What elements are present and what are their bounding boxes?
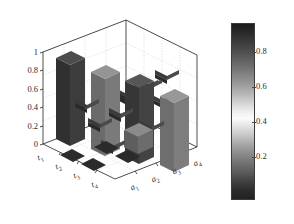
ztick-label-1: 1 — [16, 48, 38, 57]
ztick-label-0.4: 0.4 — [10, 103, 38, 112]
colorbar-tick-label-0.2: 0.2 — [256, 152, 267, 161]
ztick-label-0.2: 0.2 — [10, 122, 38, 131]
colorbar-tick-label-0.6: 0.6 — [256, 82, 267, 91]
ztick-label-0.8: 0.8 — [10, 66, 38, 75]
axes-3d — [0, 0, 210, 224]
ztick-label-0: 0 — [16, 140, 38, 149]
scene-svg — [0, 0, 210, 224]
bar-t4-a4 — [160, 89, 189, 172]
colorbar — [231, 23, 255, 200]
colorbar-tick-label-0.8: 0.8 — [256, 47, 267, 56]
figure-3d-bar-chart: 1 0.8 0.6 0.4 0.2 0 t1 t2 t3 t4 a1 a2 a3… — [0, 0, 294, 224]
bar-t1-a1 — [56, 51, 85, 146]
colorbar-tick-label-0.4: 0.4 — [256, 117, 267, 126]
ztick-label-0.6: 0.6 — [10, 85, 38, 94]
